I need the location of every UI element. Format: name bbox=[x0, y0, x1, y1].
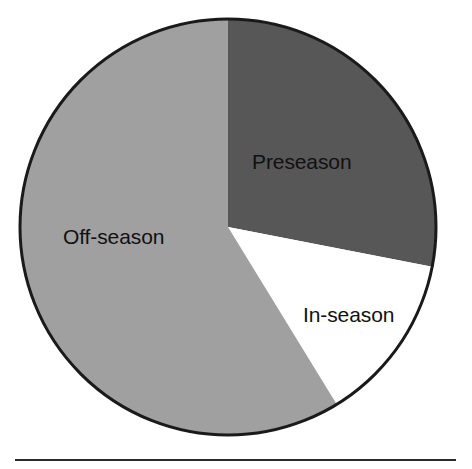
pie-slice-preseason bbox=[228, 19, 436, 267]
slice-label-preseason: Preseason bbox=[252, 151, 352, 172]
horizontal-rule bbox=[15, 459, 456, 461]
pie-chart-figure: Preseason Off-season In-season bbox=[0, 0, 472, 469]
slice-label-off-season: Off-season bbox=[63, 226, 164, 247]
slice-label-in-season: In-season bbox=[303, 304, 394, 325]
